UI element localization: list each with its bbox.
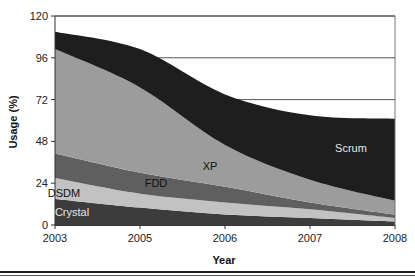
band-label-dsdm: DSDM (48, 187, 80, 199)
band-label-crystal: Crystal (55, 206, 89, 218)
x-tick-label: 2008 (383, 232, 407, 244)
y-tick-label: 48 (36, 135, 48, 147)
bottom-rule-thin (0, 275, 415, 276)
band-label-scrum: Scrum (335, 142, 367, 154)
y-tick-label: 24 (36, 177, 48, 189)
band-label-xp: XP (203, 160, 218, 172)
x-axis-ticks: 20032005200620072008 (43, 225, 407, 244)
x-tick-label: 2006 (213, 232, 237, 244)
x-tick-label: 2005 (128, 232, 152, 244)
x-axis-title: Year (212, 254, 236, 266)
bottom-rule (0, 271, 415, 273)
area-bands (55, 32, 395, 225)
y-tick-label: 96 (36, 52, 48, 64)
x-tick-label: 2003 (43, 232, 67, 244)
y-tick-label: 72 (36, 94, 48, 106)
band-label-fdd: FDD (145, 177, 168, 189)
y-axis-title: Usage (%) (7, 95, 19, 149)
y-tick-label: 120 (30, 10, 48, 22)
y-tick-label: 0 (42, 219, 48, 231)
x-tick-label: 2007 (298, 232, 322, 244)
stacked-area-chart: 024487296120 20032005200620072008 Crysta… (0, 0, 415, 277)
